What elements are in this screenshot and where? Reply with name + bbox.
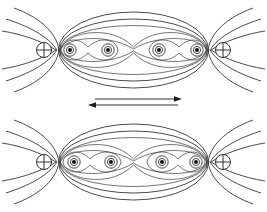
nucleus-right-bottom <box>216 155 231 170</box>
nucleus-left-top <box>37 43 52 58</box>
nucleus-left-bottom <box>37 155 52 170</box>
nucleus-right-top <box>216 43 231 58</box>
diagram-canvas <box>0 0 267 212</box>
canvas-background <box>0 0 267 212</box>
molecular-bond-figure: Covalent bond electron density contour d… <box>0 0 267 212</box>
